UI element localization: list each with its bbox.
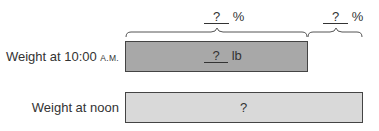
brace-left-label: ? %	[204, 9, 244, 24]
row-label-noon: Weight at noon	[32, 100, 119, 115]
brace-right	[308, 28, 362, 37]
weight-blank[interactable]: ?	[204, 50, 228, 63]
row-label-10am: Weight at 10:00 A.M.	[6, 49, 119, 64]
brace-left	[126, 28, 307, 37]
percent-blank[interactable]: ?	[323, 11, 348, 24]
bar-10am-text: ? lb	[204, 48, 242, 63]
row-label-suffix: A.M.	[100, 53, 119, 63]
percent-unit: %	[233, 9, 245, 24]
brace-right-label: ? %	[323, 9, 363, 24]
percent-blank[interactable]: ?	[204, 11, 229, 24]
percent-unit: %	[352, 9, 364, 24]
weight-unit: lb	[232, 48, 242, 63]
bar-noon-text: ?	[240, 100, 247, 115]
row-label-text: Weight at 10:00	[6, 49, 100, 64]
